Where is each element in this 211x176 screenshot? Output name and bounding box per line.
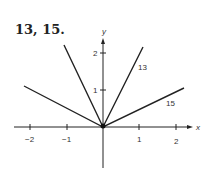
x-tick-label: −1 xyxy=(62,135,72,144)
y-tick-label: 1 xyxy=(93,86,98,95)
y-axis-arrow-icon xyxy=(101,38,105,44)
curve-15 xyxy=(24,86,184,127)
x-axis-label: x xyxy=(195,123,201,132)
curve-13-label: 13 xyxy=(138,63,147,72)
x-axis-arrow-icon xyxy=(187,125,193,129)
origin-point xyxy=(101,124,106,129)
curve-15-label: 15 xyxy=(166,99,175,108)
chart: −2 −1 1 2 1 2 x y 13 15 xyxy=(0,0,211,176)
x-tick-label: −2 xyxy=(25,135,35,144)
y-tick-label: 2 xyxy=(93,49,98,58)
x-tick-label: 2 xyxy=(174,137,179,146)
x-tick-label: 1 xyxy=(137,135,142,144)
y-axis-label: y xyxy=(101,27,107,36)
